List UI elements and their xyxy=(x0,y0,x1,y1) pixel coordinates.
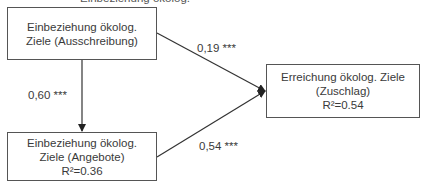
node-line: Ziele (Angebote) xyxy=(39,150,124,164)
cropped-top-text: Einbeziehung ökolog. xyxy=(80,0,190,4)
edge-label-060: 0,60 *** xyxy=(28,89,67,101)
node-r2: R²=0.36 xyxy=(61,164,102,178)
node-line: Erreichung ökolog. Ziele xyxy=(281,70,405,84)
edge-label-054: 0,54 *** xyxy=(199,140,238,152)
node-line: (Zuschlag) xyxy=(316,84,370,98)
node-line: Einbeziehung ökolog. xyxy=(27,20,137,34)
node-zuschlag: Erreichung ökolog. Ziele (Zuschlag) R²=0… xyxy=(266,64,420,118)
node-r2: R²=0.54 xyxy=(322,98,363,112)
edge-label-019: 0,19 *** xyxy=(197,42,236,54)
node-line: Ziele (Ausschreibung) xyxy=(26,34,138,48)
node-line: Einbeziehung ökolog. xyxy=(27,136,137,150)
node-angebote: Einbeziehung ökolog. Ziele (Angebote) R²… xyxy=(7,132,157,181)
node-ausschreibung: Einbeziehung ökolog. Ziele (Ausschreibun… xyxy=(7,7,157,60)
